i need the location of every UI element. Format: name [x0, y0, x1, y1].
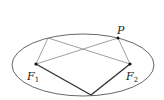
- ellipse-diagram: P F1 F2: [0, 0, 164, 100]
- label-F1: F1: [26, 70, 39, 84]
- segment-F1-P: [36, 38, 118, 64]
- segment-P-F2: [118, 38, 130, 64]
- thick-lines: [36, 64, 130, 95]
- focus-F1-dot: [34, 62, 37, 65]
- label-F2: F2: [125, 70, 138, 84]
- thin-lines: [36, 38, 130, 64]
- segment-F1-Q: [36, 38, 48, 64]
- label-P: P: [116, 24, 125, 37]
- segment-Q-F2: [48, 38, 130, 64]
- ellipse: [12, 34, 154, 96]
- focus-F2-dot: [128, 62, 131, 65]
- segment-F1-B: [36, 64, 91, 95]
